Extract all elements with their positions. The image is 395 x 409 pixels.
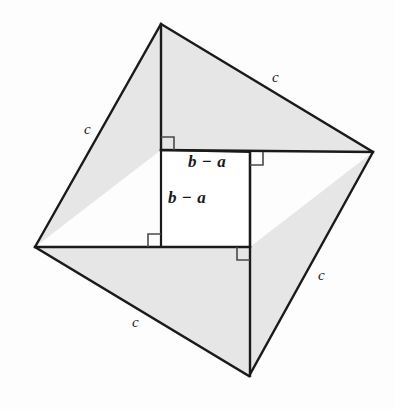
c-label-top-right: c [272, 70, 279, 85]
ba-label-horizontal: b − a [188, 153, 226, 170]
right-angle-mark-bottom-left-outer [148, 234, 161, 247]
c-label-top-left: c [84, 122, 91, 137]
ba-label-vertical: b − a [168, 189, 206, 206]
c-label-bottom-right: c [318, 268, 325, 283]
right-angle-mark-top-right-outer [250, 152, 263, 165]
figure-container: c c c c b − a b − a [0, 0, 395, 409]
c-label-bottom-left: c [132, 315, 139, 330]
